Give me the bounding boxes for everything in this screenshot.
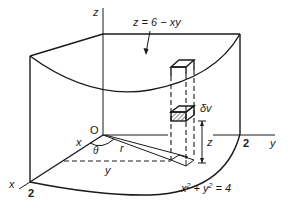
arrow-up-icon	[200, 121, 204, 126]
arrowhead-icon	[144, 48, 149, 55]
height-label: z	[206, 136, 213, 148]
y-axis-label: y	[269, 137, 277, 149]
cylinder-volume-diagram: z z = 6 − xy x 2 2 y O θ x r y δv	[0, 0, 293, 212]
top-left-edge	[30, 34, 103, 56]
y-coord-label: y	[104, 164, 112, 176]
origin-label: O	[90, 124, 99, 136]
radius-line	[103, 135, 171, 160]
x-coord-label: x	[75, 136, 82, 148]
x-intercept-label: 2	[28, 187, 34, 199]
column-base	[171, 155, 194, 166]
surface-label: z = 6 − xy	[132, 16, 182, 28]
arrow-down-icon	[200, 158, 204, 163]
z-axis-label: z	[92, 6, 99, 18]
volume-element-front	[171, 112, 186, 121]
radius-line-2	[105, 135, 188, 157]
radius-label: r	[120, 142, 125, 154]
surface-curve	[30, 34, 240, 92]
y-intercept-label: 2	[243, 137, 249, 149]
volume-element-label: δv	[200, 102, 213, 114]
volume-element-side	[186, 106, 194, 121]
theta-label: θ	[93, 145, 99, 156]
boundary-equation: x2 + y2 = 4	[180, 182, 231, 194]
x-axis-label: x	[8, 178, 15, 190]
column-top-face	[171, 60, 194, 67]
x-axis	[30, 135, 103, 182]
